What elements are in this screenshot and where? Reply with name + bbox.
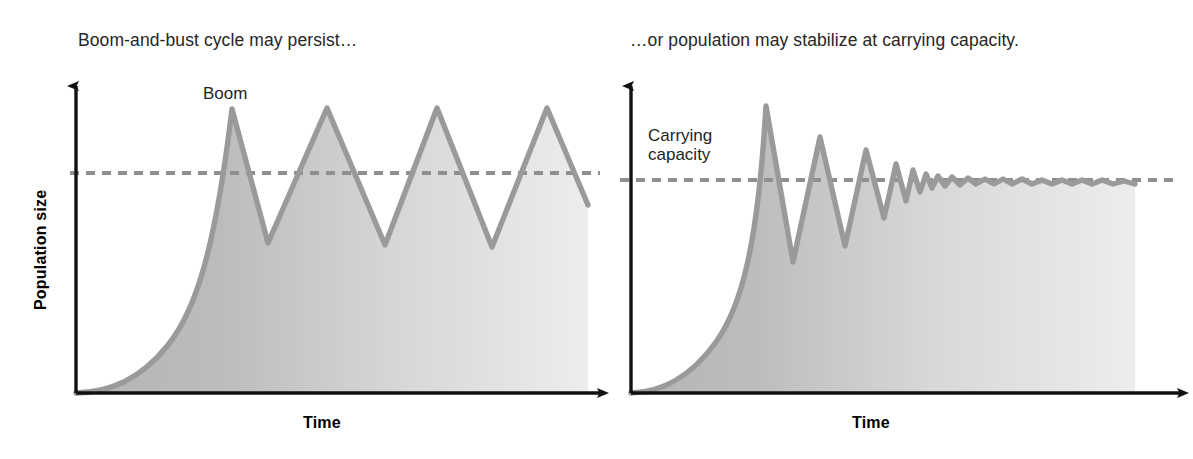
- panel-logistic-stabilize: [620, 86, 1180, 393]
- population-growth-figure: [0, 0, 1193, 459]
- panel-boom-bust: [70, 86, 600, 393]
- area-fill-left: [76, 108, 588, 393]
